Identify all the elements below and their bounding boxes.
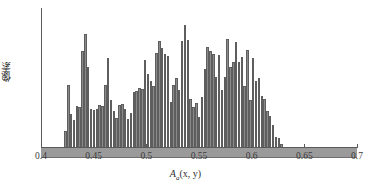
x-axis-tick-mark [304, 144, 305, 148]
x-axis-tick-mark [146, 144, 147, 148]
x-axis-tick-label: 0.7 [343, 152, 371, 162]
x-axis-tick-mark [41, 144, 42, 148]
x-axis-tick-label: 0.65 [290, 152, 318, 162]
x-axis-tick-mark [252, 144, 253, 148]
x-axis-tick-label: 0.55 [185, 152, 213, 162]
plot-area [41, 8, 357, 148]
histogram-bar [280, 144, 282, 148]
x-axis-tick-label: 0.5 [132, 152, 160, 162]
x-axis-tick-label: 0.4 [27, 152, 55, 162]
x-axis-tick-mark [199, 144, 200, 148]
histogram-bars [42, 8, 357, 147]
x-axis-tick-label: 0.6 [238, 152, 266, 162]
x-axis-tick-mark [94, 144, 95, 148]
histogram-figure: 020406080100120 0.40.450.50.550.60.650.7… [0, 0, 371, 188]
x-axis-tick-label: 0.45 [80, 152, 108, 162]
x-axis-tick-mark [357, 144, 358, 148]
x-axis-title-args: (x, y) [179, 168, 201, 179]
x-axis-title: Aa(x, y) [0, 168, 371, 182]
y-axis-title: 像素 [2, 62, 16, 82]
